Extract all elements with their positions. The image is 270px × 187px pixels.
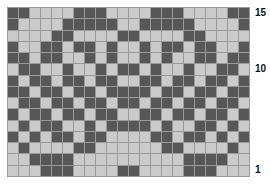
chart-cell	[52, 64, 63, 75]
chart-cell	[63, 143, 74, 154]
chart-cell	[184, 53, 195, 64]
chart-cell	[173, 154, 184, 165]
chart-cell	[19, 166, 30, 177]
chart-cell	[41, 87, 52, 98]
chart-cell	[239, 87, 250, 98]
chart-cell	[206, 42, 217, 53]
chart-cell	[195, 42, 206, 53]
chart-cell	[195, 19, 206, 30]
chart-cell	[184, 98, 195, 109]
chart-cell	[162, 31, 173, 42]
chart-cell	[30, 109, 41, 120]
chart-cell	[52, 42, 63, 53]
chart-cell	[195, 121, 206, 132]
chart-cell	[206, 109, 217, 120]
chart-cell	[30, 154, 41, 165]
chart-cell	[239, 42, 250, 53]
chart-cell	[8, 64, 19, 75]
chart-cell	[63, 76, 74, 87]
chart-cell	[41, 121, 52, 132]
chart-cell	[228, 31, 239, 42]
chart-cell	[52, 31, 63, 42]
chart-cell	[41, 143, 52, 154]
chart-cell	[228, 53, 239, 64]
chart-cell	[195, 154, 206, 165]
chart-cell	[30, 132, 41, 143]
chart-cell	[140, 8, 151, 19]
chart-cell	[8, 143, 19, 154]
chart-cell	[118, 8, 129, 19]
row-label-15: 15	[255, 8, 266, 18]
chart-cell	[118, 166, 129, 177]
chart-cell	[85, 76, 96, 87]
chart-cell	[52, 132, 63, 143]
chart-cell	[162, 98, 173, 109]
chart-cell	[8, 8, 19, 19]
chart-cell	[184, 64, 195, 75]
chart-cell	[74, 76, 85, 87]
chart-cell	[19, 98, 30, 109]
chart-cell	[206, 121, 217, 132]
chart-cell	[162, 19, 173, 30]
chart-cell	[162, 109, 173, 120]
chart-cell	[151, 31, 162, 42]
chart-cell	[162, 87, 173, 98]
chart-cell	[195, 53, 206, 64]
chart-cell	[96, 8, 107, 19]
chart-cell	[8, 76, 19, 87]
chart-cell	[63, 166, 74, 177]
chart-cell	[217, 53, 228, 64]
chart-cell	[107, 109, 118, 120]
chart-cell	[140, 19, 151, 30]
chart-cell	[30, 143, 41, 154]
chart-cell	[140, 76, 151, 87]
chart-cell	[184, 8, 195, 19]
row-label-10: 10	[255, 64, 266, 74]
chart-cell	[129, 42, 140, 53]
chart-cell	[151, 64, 162, 75]
chart-cell	[195, 132, 206, 143]
chart-cell	[74, 31, 85, 42]
chart-cell	[19, 154, 30, 165]
chart-cell	[184, 154, 195, 165]
chart-cell	[239, 143, 250, 154]
chart-cell	[151, 109, 162, 120]
chart-cell	[41, 42, 52, 53]
chart-cell	[239, 31, 250, 42]
chart-cell	[96, 121, 107, 132]
chart-cell	[118, 132, 129, 143]
chart-cell	[173, 53, 184, 64]
chart-cell	[184, 166, 195, 177]
chart-cell	[74, 143, 85, 154]
chart-cell	[107, 53, 118, 64]
chart-cell	[8, 87, 19, 98]
chart-cell	[140, 87, 151, 98]
chart-cell	[184, 143, 195, 154]
chart-cell	[107, 42, 118, 53]
chart-cell	[107, 19, 118, 30]
chart-cell	[195, 31, 206, 42]
chart-cell	[118, 76, 129, 87]
chart-cell	[85, 8, 96, 19]
chart-cell	[140, 64, 151, 75]
chart-cell	[96, 98, 107, 109]
chart-cell	[107, 64, 118, 75]
chart-cell	[173, 121, 184, 132]
chart-cell	[173, 8, 184, 19]
row-label-1: 1	[255, 165, 261, 175]
chart-cell	[85, 143, 96, 154]
chart-cell	[228, 42, 239, 53]
chart-cell	[63, 87, 74, 98]
chart-cell	[140, 53, 151, 64]
chart-cell	[41, 53, 52, 64]
chart-cell	[96, 76, 107, 87]
chart-cell	[52, 166, 63, 177]
chart-cell	[173, 109, 184, 120]
chart-cell	[30, 121, 41, 132]
chart-cell	[52, 19, 63, 30]
chart-cell	[30, 64, 41, 75]
chart-cell	[162, 132, 173, 143]
chart-cell	[19, 8, 30, 19]
chart-cell	[41, 109, 52, 120]
chart-cell	[107, 132, 118, 143]
